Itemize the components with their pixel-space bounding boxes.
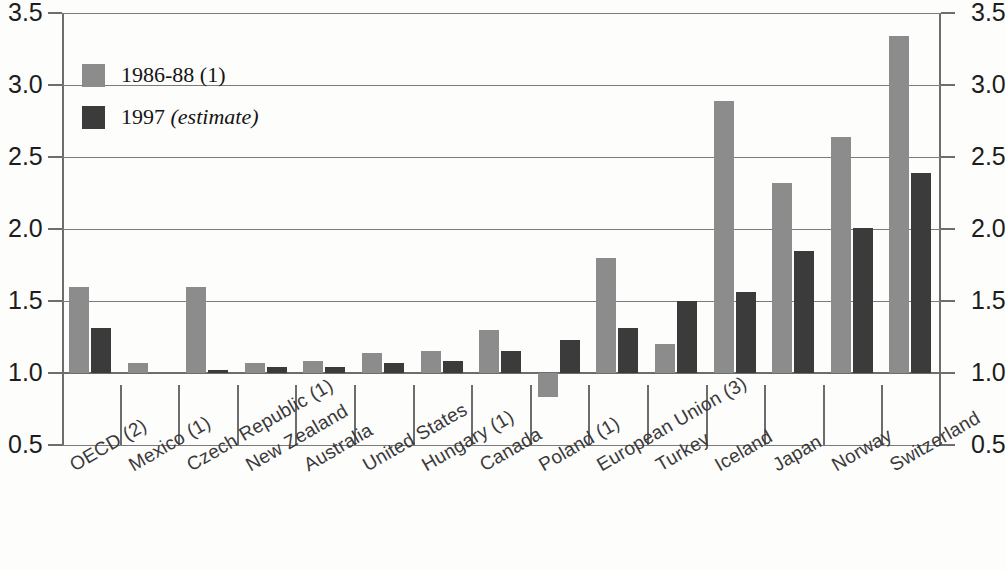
bar bbox=[618, 328, 638, 373]
chart-legend: 1986-88 (1)1997 (estimate) bbox=[82, 54, 258, 138]
y-tick-label: 3.0 bbox=[971, 72, 1005, 97]
legend-label: 1986-88 (1) bbox=[121, 62, 225, 88]
legend-item: 1997 (estimate) bbox=[82, 96, 258, 138]
y-tick-label: 3.5 bbox=[971, 0, 1005, 25]
y-tick-label-left: 2.0 bbox=[8, 216, 43, 241]
y-axis-tick-right bbox=[941, 300, 955, 302]
gridline bbox=[62, 229, 941, 230]
y-axis-tick-right bbox=[941, 12, 955, 14]
y-axis-tick-left bbox=[48, 84, 62, 86]
y-tick-label: 1.0 bbox=[971, 360, 1005, 385]
bar bbox=[362, 353, 382, 373]
y-tick-label-left: 2.5 bbox=[8, 144, 43, 169]
bar bbox=[303, 361, 323, 373]
gridline bbox=[62, 157, 941, 158]
y-axis-tick-left bbox=[48, 12, 62, 14]
bar bbox=[186, 287, 206, 373]
category-separator bbox=[823, 385, 825, 445]
y-axis-tick-left bbox=[48, 156, 62, 158]
bar bbox=[69, 287, 89, 373]
legend-swatch bbox=[82, 64, 105, 87]
y-tick-label: 1.5 bbox=[971, 288, 1005, 313]
bar bbox=[443, 361, 463, 373]
y-axis-tick-right bbox=[941, 372, 955, 374]
bar bbox=[91, 328, 111, 373]
legend-swatch bbox=[82, 106, 105, 129]
y-axis-tick-left bbox=[48, 300, 62, 302]
bar bbox=[714, 101, 734, 373]
y-tick-label-left: 3.5 bbox=[8, 0, 43, 25]
bar bbox=[596, 258, 616, 373]
bar bbox=[853, 228, 873, 373]
bar bbox=[479, 330, 499, 373]
bar bbox=[501, 351, 521, 373]
bar bbox=[421, 351, 441, 373]
y-axis-tick-right bbox=[941, 228, 955, 230]
bar bbox=[794, 251, 814, 373]
legend-label-emphasis: (estimate) bbox=[171, 104, 259, 129]
y-tick-label-left: 1.0 bbox=[8, 360, 43, 385]
chart-page: 0.51.01.52.02.53.03.5 0.51.01.52.02.53.0… bbox=[0, 0, 1005, 570]
bar bbox=[772, 183, 792, 373]
bar bbox=[384, 363, 404, 373]
y-axis-labels-right: 0.51.01.52.02.53.03.5 bbox=[971, 13, 1005, 445]
gridline bbox=[62, 13, 941, 14]
y-tick-label-left: 1.5 bbox=[8, 288, 43, 313]
bar bbox=[736, 292, 756, 373]
bar bbox=[831, 137, 851, 373]
y-axis-tick-right bbox=[941, 84, 955, 86]
y-axis-tick-left bbox=[48, 444, 62, 446]
y-axis-tick-left bbox=[48, 372, 62, 374]
legend-item: 1986-88 (1) bbox=[82, 54, 258, 96]
y-tick-label: 0.5 bbox=[971, 432, 1005, 457]
bar bbox=[128, 363, 148, 373]
y-axis-tick-right bbox=[941, 156, 955, 158]
bar bbox=[245, 363, 265, 373]
y-axis-tick-left bbox=[48, 228, 62, 230]
bleed-text bbox=[150, 520, 154, 537]
bar bbox=[911, 173, 931, 373]
y-tick-label-left: 0.5 bbox=[8, 432, 43, 457]
bar bbox=[538, 373, 558, 397]
y-tick-label: 2.5 bbox=[971, 144, 1005, 169]
bar bbox=[889, 36, 909, 373]
bar bbox=[560, 340, 580, 373]
y-tick-label: 2.0 bbox=[971, 216, 1005, 241]
y-tick-label-left: 3.0 bbox=[8, 72, 43, 97]
bar bbox=[655, 344, 675, 373]
bar bbox=[677, 301, 697, 373]
legend-label: 1997 (estimate) bbox=[121, 104, 258, 130]
bar bbox=[325, 367, 345, 373]
bar bbox=[208, 370, 228, 373]
bar bbox=[267, 367, 287, 373]
